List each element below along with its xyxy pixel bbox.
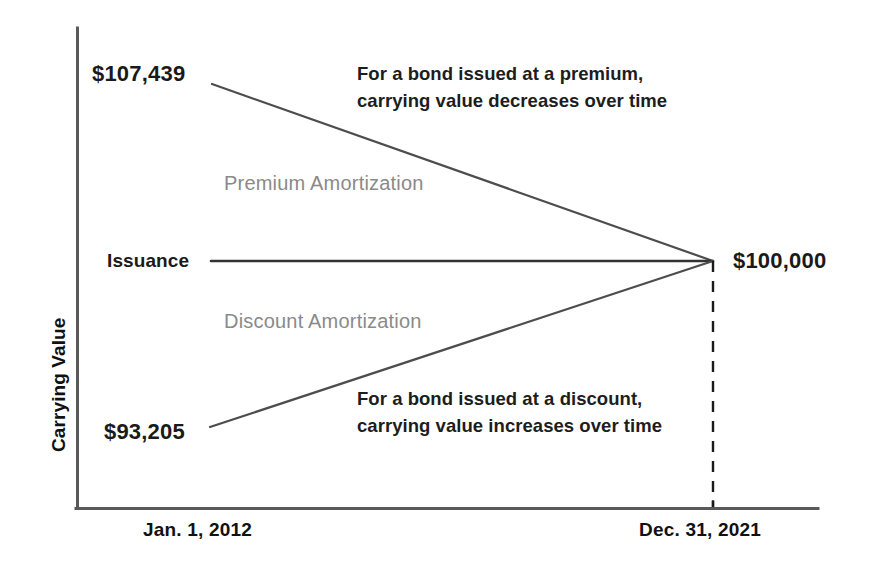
premium-annotation-line1: For a bond issued at a premium, — [357, 61, 667, 88]
discount-start-value-label: $93,205 — [104, 417, 185, 446]
maturity-value-label: $100,000 — [733, 246, 826, 275]
discount-annotation: For a bond issued at a discount, carryin… — [357, 386, 662, 440]
premium-amortization-caption: Premium Amortization — [224, 170, 424, 196]
x-axis-tick-label-end: Dec. 31, 2021 — [639, 519, 761, 541]
y-axis-title: Carrying Value — [46, 32, 71, 452]
premium-start-value-label: $107,439 — [92, 59, 185, 88]
discount-annotation-line2: carrying value increases over time — [357, 413, 662, 440]
discount-amortization-caption: Discount Amortization — [224, 308, 422, 334]
discount-annotation-line1: For a bond issued at a discount, — [357, 386, 662, 413]
x-axis-tick-label-start: Jan. 1, 2012 — [143, 519, 252, 541]
premium-annotation: For a bond issued at a premium, carrying… — [357, 61, 667, 115]
chart-figure: Carrying Value $107,439 For a bond issue… — [0, 0, 879, 575]
issuance-label: Issuance — [107, 248, 189, 273]
premium-annotation-line2: carrying value decreases over time — [357, 88, 667, 115]
